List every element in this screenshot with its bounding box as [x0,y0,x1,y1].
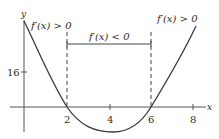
left-region-label: f′(x) > 0 [30,20,72,31]
x-tick-label-2: 2 [64,114,70,125]
middle-region-label: f′(x) < 0 [88,31,130,42]
function-plot: y x 16 2 4 6 8 f′(x) > 0 f′(x) < 0 f′(x)… [0,0,219,139]
y-tick-label-16: 16 [7,67,20,78]
right-region-label: f′(x) > 0 [156,13,198,24]
x-tick-label-8: 8 [190,114,196,125]
x-tick-label-4: 4 [107,114,113,125]
x-axis-label: x [207,102,212,112]
y-axis-label: y [20,9,27,19]
x-tick-label-6: 6 [148,114,154,125]
